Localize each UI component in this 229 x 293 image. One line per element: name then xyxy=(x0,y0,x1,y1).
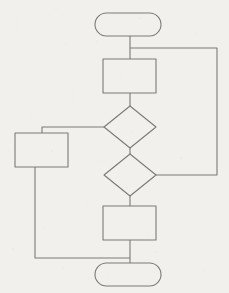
node-decision-2[interactable] xyxy=(104,154,156,196)
node-decision-1[interactable] xyxy=(104,106,156,148)
node-start[interactable] xyxy=(95,13,161,36)
node-process-2[interactable] xyxy=(103,206,156,240)
connector-start-branch-to-decision-2 xyxy=(130,48,217,175)
node-process-1[interactable] xyxy=(103,59,156,93)
flowchart-svg xyxy=(0,0,229,293)
connector-process-left-to-end xyxy=(35,167,130,258)
flowchart-canvas xyxy=(0,0,229,293)
node-end[interactable] xyxy=(95,263,161,286)
connector-decision-1-to-process-left xyxy=(42,127,104,133)
node-process-left[interactable] xyxy=(15,133,68,167)
